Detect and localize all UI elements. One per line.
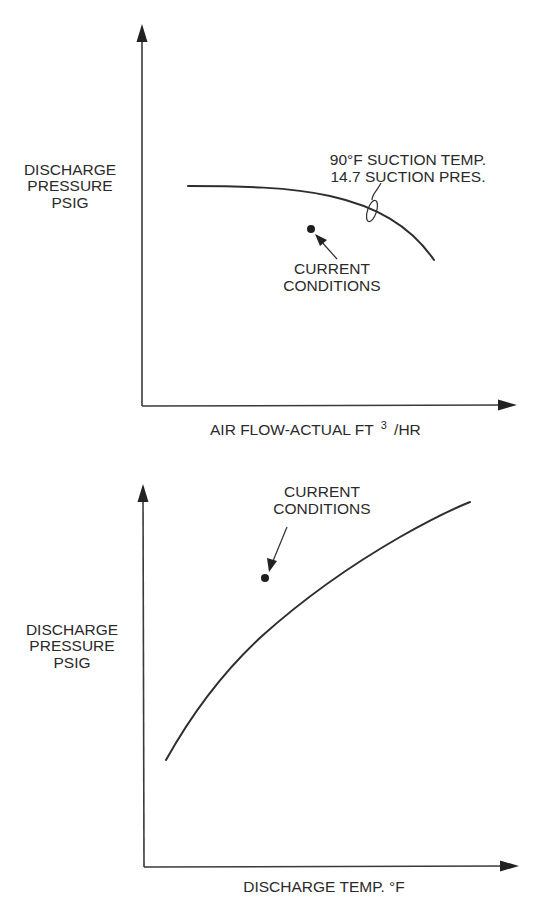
top-point-pointer-arrow-icon: [315, 234, 327, 246]
top-x-label-suffix: /HR: [394, 421, 421, 438]
curve-label-line-1: 90°F SUCTION TEMP.: [330, 151, 486, 168]
top-x-label: AIR FLOW-ACTUAL FT 3 /HR: [210, 415, 421, 438]
top-point-label-line-2: CONDITIONS: [283, 277, 380, 294]
curve-label-line-2: 14.7 SUCTION PRES.: [330, 168, 485, 185]
bottom-y-label-line-2: PRESSURE: [29, 637, 114, 654]
bottom-y-axis: [143, 496, 144, 867]
top-y-axis-arrow-icon: [137, 24, 148, 42]
chart-top: DISCHARGE PRESSURE PSIG AIR FLOW-ACTUAL …: [24, 24, 517, 438]
bottom-current-conditions-point: [261, 574, 269, 582]
bottom-x-axis-arrow-icon: [500, 861, 519, 872]
top-x-label-superscript: 3: [381, 419, 387, 431]
top-performance-curve: [188, 186, 434, 260]
bottom-point-label-line-1: CURRENT: [284, 483, 360, 500]
bottom-point-label-line-2: CONDITIONS: [273, 500, 370, 517]
top-x-axis-arrow-icon: [498, 400, 517, 411]
bottom-x-label: DISCHARGE TEMP. °F: [243, 878, 405, 895]
top-y-label-line-1: DISCHARGE: [24, 161, 116, 178]
top-point-label-line-1: CURRENT: [294, 260, 370, 277]
top-y-label-line-2: PRESSURE: [27, 177, 112, 194]
curve-label-leader: [372, 183, 381, 200]
bottom-point-pointer-line: [273, 527, 287, 561]
chart-bottom: DISCHARGE PRESSURE PSIG DISCHARGE TEMP. …: [26, 483, 519, 895]
bottom-y-axis-arrow-icon: [138, 484, 149, 502]
bottom-y-label-line-1: DISCHARGE: [26, 621, 118, 638]
top-x-label-main: AIR FLOW-ACTUAL FT: [210, 421, 374, 438]
top-current-conditions-point: [307, 225, 315, 233]
top-y-label-line-3: PSIG: [51, 194, 88, 211]
bottom-x-axis: [144, 866, 506, 867]
bottom-point-pointer-arrow-icon: [267, 558, 277, 572]
bottom-performance-curve: [166, 502, 470, 760]
figure: DISCHARGE PRESSURE PSIG AIR FLOW-ACTUAL …: [0, 0, 540, 918]
bottom-y-label-line-3: PSIG: [53, 654, 90, 671]
top-x-axis: [142, 405, 504, 406]
